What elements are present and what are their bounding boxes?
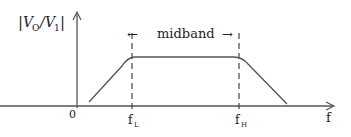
- f-high-sub: H: [241, 121, 247, 129]
- midband-arrow-left-icon: ←: [127, 27, 138, 42]
- x-axis-label: f: [326, 110, 332, 125]
- y-axis-label-den-sub: 1: [54, 23, 60, 33]
- frequency-response-diagram: | V O / V 1 | ← midband → 0 f L f H f: [0, 0, 351, 137]
- y-axis-label-num-sub: O: [32, 23, 39, 33]
- response-curve: [89, 57, 287, 104]
- midband-arrow-right-icon: →: [222, 27, 233, 42]
- y-axis-label-bar-right: |: [60, 13, 65, 31]
- diagram-canvas: | V O / V 1 | ← midband → 0 f L f H f: [0, 0, 351, 137]
- midband-label: midband: [157, 26, 215, 41]
- origin-label: 0: [69, 108, 76, 121]
- f-low-sub: L: [134, 121, 139, 129]
